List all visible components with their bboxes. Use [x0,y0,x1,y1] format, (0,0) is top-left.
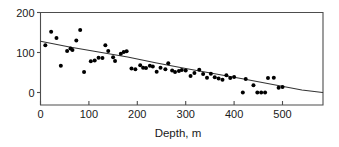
x-axis-tick-labels: 0100200300400500 [37,108,291,120]
data-point [259,91,263,95]
data-point [220,78,224,82]
data-point [43,43,47,47]
y-tick-label: 0 [28,87,34,99]
data-point [70,48,74,52]
plot-frame [41,13,324,106]
x-axis-title: Depth, m [155,127,202,139]
data-point [133,67,137,71]
data-point [244,77,248,81]
y-tick-label: 200 [16,7,34,19]
y-axis-tick-labels: 0100200 [16,7,34,99]
data-point [125,49,129,53]
y-tick-label: 100 [16,47,34,59]
scatter-plot-figure: 0100200 0100200300400500 Depth, m [0,0,339,147]
data-point [144,66,148,70]
data-point [49,30,53,34]
data-point [93,59,97,63]
data-point [184,69,188,73]
data-point [166,61,170,65]
axes-frame [41,13,324,106]
plot-canvas: 0100200 0100200300400500 Depth, m [0,0,339,147]
data-point [155,70,159,74]
data-point [197,68,201,72]
x-tick-label: 400 [225,108,243,120]
x-tick-label: 200 [128,108,146,120]
data-point [151,65,155,69]
data-point [103,43,107,47]
x-axis-ticks [41,101,283,105]
data-point [111,55,115,59]
data-point [272,76,276,80]
data-point [281,85,285,89]
data-point [277,86,281,90]
data-point [232,75,236,79]
data-point [189,74,193,78]
data-point [173,70,177,74]
fitted-trend-line [41,41,323,92]
data-point [180,68,184,72]
data-point [163,67,167,71]
trend-line-group [41,41,323,92]
data-point [82,70,86,74]
x-tick-label: 500 [273,108,291,120]
x-tick-label: 0 [37,108,43,120]
data-points-group [43,28,284,94]
data-point [159,66,163,70]
data-point [266,76,270,80]
data-point [100,56,104,60]
data-point [224,73,228,77]
data-point [74,39,78,43]
data-point [251,83,255,87]
x-tick-label: 300 [177,108,195,120]
data-point [192,71,196,75]
data-point [201,72,205,76]
data-point [97,56,101,60]
data-point [213,75,217,79]
data-point [209,72,213,76]
data-point [54,36,58,40]
x-tick-label: 100 [80,108,98,120]
data-point [89,59,93,63]
data-point [205,76,209,80]
data-point [255,91,259,95]
data-point [113,59,117,63]
data-point [129,67,133,71]
data-point [263,91,267,95]
data-point [228,76,232,80]
data-point [217,77,221,81]
data-point [78,28,82,32]
data-point [59,64,63,68]
data-point [106,49,110,53]
data-point [65,49,69,53]
data-point [241,91,245,95]
